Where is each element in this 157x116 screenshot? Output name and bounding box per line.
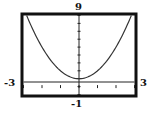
ymax-label: 9 [75, 2, 82, 12]
xmax-label: 3 [140, 78, 147, 88]
xmin-label: -3 [4, 78, 15, 88]
ymin-label: -1 [71, 99, 82, 109]
